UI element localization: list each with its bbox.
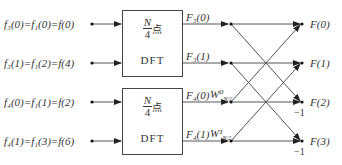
twiddle-factor-1: W¹N/2	[210, 127, 231, 144]
dft-label: DFT	[123, 132, 182, 144]
minus-one-label: −1	[294, 146, 305, 157]
block-output-F4-0: F₄(0)	[186, 89, 209, 101]
input-label-1: f₃(1)=f₁(2)=f(4)	[4, 57, 74, 69]
output-label-2: F(2)	[310, 96, 330, 108]
dft-label: DFT	[123, 54, 182, 66]
block-output-F3-1: F₃(1)	[186, 50, 209, 62]
twiddle-factor-0: W⁰N/2	[210, 88, 232, 105]
butterfly-diagram: f₃(0)=f₁(0)=f(0) f₃(1)=f₁(2)=f(4) f₄(0)=…	[0, 0, 342, 165]
output-label-0: F(0)	[310, 18, 330, 30]
output-label-3: F(3)	[310, 135, 330, 147]
dft-block-lower: N 4 点 DFT	[122, 88, 183, 155]
input-label-3: f₄(1)=f₁(3)=f(6)	[4, 135, 74, 147]
minus-one-label: −1	[294, 107, 305, 118]
input-label-2: f₄(0)=f₁(1)=f(2)	[4, 96, 74, 108]
block-size-label: N 4 点	[123, 17, 182, 40]
dft-block-upper: N 4 点 DFT	[122, 10, 183, 77]
output-label-1: F(1)	[310, 57, 330, 69]
input-label-0: f₃(0)=f₁(0)=f(0)	[4, 18, 74, 30]
block-output-F3-0: F₃(0)	[186, 11, 209, 23]
block-output-F4-1: F₄(1)	[186, 128, 209, 140]
block-size-label: N 4 点	[123, 95, 182, 118]
